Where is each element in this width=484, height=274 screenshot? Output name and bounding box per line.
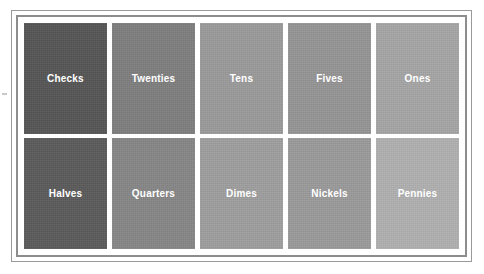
- tile-label-twenties: Twenties: [132, 73, 176, 84]
- tile-label-checks: Checks: [47, 73, 84, 84]
- tile-label-dimes: Dimes: [226, 188, 257, 199]
- tile-tens[interactable]: Tens: [200, 23, 283, 134]
- margin-mark: [2, 93, 7, 95]
- tile-halves[interactable]: Halves: [24, 138, 107, 249]
- tile-label-halves: Halves: [49, 188, 82, 199]
- tile-label-tens: Tens: [230, 73, 253, 84]
- tile-label-nickels: Nickels: [311, 188, 347, 199]
- tile-pennies[interactable]: Pennies: [376, 138, 459, 249]
- tile-label-quarters: Quarters: [132, 188, 175, 199]
- tile-twenties[interactable]: Twenties: [112, 23, 195, 134]
- tile-label-pennies: Pennies: [398, 188, 438, 199]
- tile-dimes[interactable]: Dimes: [200, 138, 283, 249]
- tile-nickels[interactable]: Nickels: [288, 138, 371, 249]
- tile-ones[interactable]: Ones: [376, 23, 459, 134]
- outer-frame-border: Checks Twenties Tens Fives Ones Halves Q…: [11, 10, 472, 262]
- tile-checks[interactable]: Checks: [24, 23, 107, 134]
- inner-frame-border: Checks Twenties Tens Fives Ones Halves Q…: [16, 15, 467, 257]
- denomination-grid: Checks Twenties Tens Fives Ones Halves Q…: [24, 23, 459, 249]
- tile-quarters[interactable]: Quarters: [112, 138, 195, 249]
- tile-label-fives: Fives: [316, 73, 343, 84]
- tile-label-ones: Ones: [405, 73, 431, 84]
- tile-fives[interactable]: Fives: [288, 23, 371, 134]
